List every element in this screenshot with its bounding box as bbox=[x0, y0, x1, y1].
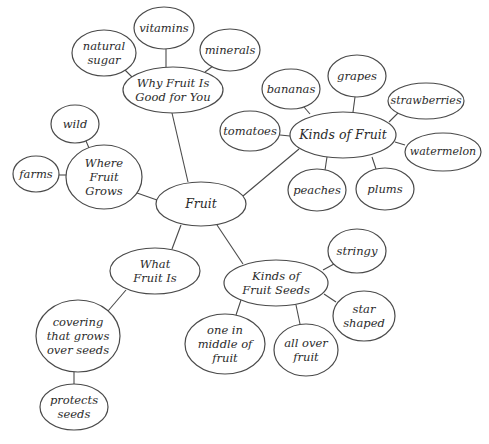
node-where-bubble bbox=[66, 145, 142, 209]
edge-fruit-to-why bbox=[172, 113, 188, 182]
node-what-bubble bbox=[110, 248, 200, 294]
node-why-bubble bbox=[123, 67, 223, 113]
node-minerals-bubble bbox=[200, 29, 260, 71]
edge-why-to-natural-sugar bbox=[125, 70, 132, 77]
node-wild-bubble bbox=[51, 105, 99, 143]
edge-kinds-of-seeds-to-stringy bbox=[323, 264, 334, 270]
node-kinds-of-fruit-bubble bbox=[290, 112, 396, 158]
edge-fruit-to-where bbox=[137, 193, 157, 200]
edge-kinds-of-fruit-to-tomatoes bbox=[280, 135, 290, 136]
edge-where-to-wild bbox=[86, 141, 89, 148]
edge-kinds-of-seeds-to-all-over bbox=[296, 305, 300, 324]
node-kinds-of-seeds-bubble bbox=[224, 260, 328, 306]
node-covering-bubble bbox=[36, 300, 120, 372]
node-grapes-bubble bbox=[328, 55, 386, 97]
node-watermelon-bubble bbox=[405, 133, 481, 171]
node-one-in-middle-bubble bbox=[185, 314, 265, 374]
edge-fruit-to-kinds-of-seeds bbox=[217, 225, 243, 264]
edge-kinds-of-fruit-to-strawberries bbox=[389, 113, 398, 122]
edge-kinds-of-fruit-to-bananas bbox=[304, 107, 310, 114]
mind-map-canvas: FruitWhy Fruit Is Good for Youvitaminsna… bbox=[0, 0, 489, 444]
nodes-layer bbox=[13, 7, 481, 430]
node-strawberries-bubble bbox=[388, 83, 464, 119]
mind-map-diagram bbox=[0, 0, 489, 444]
node-plums-bubble bbox=[356, 168, 414, 210]
node-vitamins-bubble bbox=[134, 7, 194, 49]
node-tomatoes-bubble bbox=[220, 111, 280, 151]
node-farms-bubble bbox=[13, 156, 59, 192]
edge-kinds-of-fruit-to-plums bbox=[372, 157, 376, 169]
edge-kinds-of-fruit-to-grapes bbox=[353, 97, 355, 112]
node-protects-bubble bbox=[40, 384, 108, 430]
edge-kinds-of-fruit-to-peaches bbox=[325, 157, 327, 170]
node-peaches-bubble bbox=[288, 169, 346, 211]
node-bananas-bubble bbox=[262, 69, 320, 109]
node-fruit-bubble bbox=[156, 182, 246, 226]
edge-fruit-to-what bbox=[172, 225, 181, 249]
node-natural-sugar-bubble bbox=[72, 30, 136, 76]
node-star-shaped-bubble bbox=[333, 291, 395, 341]
node-stringy-bubble bbox=[328, 229, 386, 273]
edge-kinds-of-fruit-to-watermelon bbox=[395, 142, 405, 145]
node-all-over-bubble bbox=[274, 324, 338, 376]
edge-what-to-covering bbox=[108, 290, 126, 311]
edge-kinds-of-seeds-to-one-in-middle bbox=[236, 300, 241, 315]
edge-kinds-of-seeds-to-star-shaped bbox=[324, 294, 336, 302]
